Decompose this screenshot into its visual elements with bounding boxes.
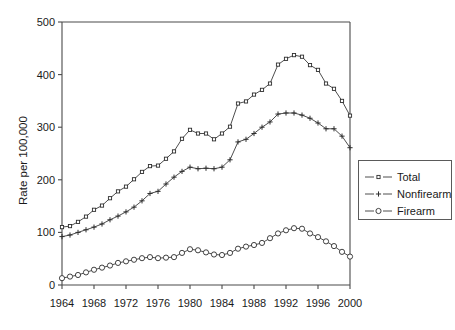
data-point-marker (172, 150, 175, 153)
data-point-marker (300, 55, 303, 58)
x-tick-label: 1992 (274, 297, 298, 309)
data-point-marker (140, 170, 143, 173)
data-point-marker (228, 125, 231, 128)
data-point-marker (60, 226, 63, 229)
data-point-marker (299, 226, 304, 231)
data-point-marker (188, 128, 191, 131)
data-point-marker (107, 263, 112, 268)
data-point-marker (59, 276, 64, 281)
line-chart: Rate per 100,000 0100200300400500 196419… (0, 0, 455, 330)
y-tick-label: 200 (37, 174, 55, 186)
data-point-marker (68, 224, 71, 227)
data-point-marker (171, 255, 176, 260)
data-point-marker (323, 239, 328, 244)
data-point-marker (148, 165, 151, 168)
data-point-marker (307, 231, 312, 236)
data-point-marker (92, 208, 95, 211)
data-point-marker (284, 57, 287, 60)
data-point-marker (235, 246, 240, 251)
x-tick-label: 1996 (306, 297, 330, 309)
legend-label: Firearm (397, 205, 435, 217)
data-point-marker (243, 244, 248, 249)
x-tick-label: 1968 (82, 297, 106, 309)
x-tick-label: 1980 (178, 297, 202, 309)
data-point-marker (220, 132, 223, 135)
data-point-marker (108, 197, 111, 200)
legend-marker-icon (377, 175, 380, 178)
y-tick-label: 0 (49, 279, 55, 291)
data-point-marker (156, 164, 159, 167)
y-tick-label: 300 (37, 121, 55, 133)
data-point-marker (244, 100, 247, 103)
legend-label: Nonfirearm (397, 188, 451, 200)
x-tick-label: 1976 (146, 297, 170, 309)
data-point-marker (75, 272, 80, 277)
data-point-marker (291, 226, 296, 231)
data-point-marker (164, 157, 167, 160)
x-tick-label: 1984 (210, 297, 234, 309)
data-point-marker (283, 228, 288, 233)
y-tick-label: 400 (37, 69, 55, 81)
x-tick-label: 2000 (338, 297, 362, 309)
legend-label: Total (397, 171, 420, 183)
data-point-marker (155, 256, 160, 261)
data-point-marker (203, 250, 208, 255)
data-point-marker (204, 132, 207, 135)
data-point-marker (276, 63, 279, 66)
data-point-marker (180, 137, 183, 140)
data-point-marker (187, 247, 192, 252)
x-tick-label: 1964 (50, 297, 74, 309)
data-point-marker (179, 250, 184, 255)
data-point-marker (347, 254, 352, 259)
data-point-marker (236, 102, 239, 105)
data-point-marker (99, 265, 104, 270)
data-point-marker (340, 99, 343, 102)
y-tick-label: 100 (37, 226, 55, 238)
data-point-marker (259, 240, 264, 245)
chart-figure: Rate per 100,000 0100200300400500 196419… (0, 0, 455, 330)
data-point-marker (131, 257, 136, 262)
data-point-marker (267, 236, 272, 241)
data-point-marker (316, 68, 319, 71)
data-point-marker (308, 64, 311, 67)
x-tick-label: 1988 (242, 297, 266, 309)
data-point-marker (124, 185, 127, 188)
data-point-marker (348, 114, 351, 117)
data-point-marker (339, 249, 344, 254)
data-point-marker (268, 82, 271, 85)
data-point-marker (195, 248, 200, 253)
data-point-marker (315, 235, 320, 240)
y-axis-title: Rate per 100,000 (17, 116, 29, 205)
data-point-marker (324, 82, 327, 85)
data-point-marker (100, 204, 103, 207)
data-point-marker (83, 270, 88, 275)
data-point-marker (91, 267, 96, 272)
data-point-marker (196, 132, 199, 135)
data-point-marker (211, 252, 216, 257)
data-point-marker (252, 93, 255, 96)
data-point-marker (123, 259, 128, 264)
data-point-marker (139, 256, 144, 261)
data-point-marker (332, 87, 335, 90)
data-point-marker (212, 138, 215, 141)
chart-legend: TotalNonfirearmFirearm (359, 161, 452, 220)
data-point-marker (132, 178, 135, 181)
data-point-marker (219, 252, 224, 257)
data-point-marker (275, 231, 280, 236)
data-point-marker (116, 190, 119, 193)
data-point-marker (251, 242, 256, 247)
data-point-marker (76, 220, 79, 223)
data-point-marker (84, 215, 87, 218)
data-point-marker (260, 88, 263, 91)
data-point-marker (331, 243, 336, 248)
legend-marker-icon (376, 208, 381, 213)
data-point-marker (292, 54, 295, 57)
data-point-marker (67, 274, 72, 279)
data-point-marker (115, 260, 120, 265)
data-point-marker (163, 255, 168, 260)
y-tick-label: 500 (37, 16, 55, 28)
data-point-marker (147, 255, 152, 260)
data-point-marker (227, 250, 232, 255)
x-tick-label: 1972 (114, 297, 138, 309)
